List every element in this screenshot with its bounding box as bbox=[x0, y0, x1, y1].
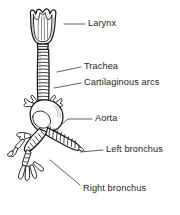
left-bronchus-group bbox=[46, 127, 84, 152]
label-larynx: Larynx bbox=[88, 18, 116, 28]
label-trachea: Trachea bbox=[84, 61, 119, 71]
right-hook-branch bbox=[8, 151, 13, 157]
label-left-bronchus: Left bronchus bbox=[106, 144, 163, 154]
trachea-group bbox=[37, 49, 49, 102]
right-terminal-2 bbox=[25, 166, 29, 180]
leader-cartilaginous-arcs bbox=[54, 83, 81, 88]
larynx-group bbox=[30, 9, 55, 50]
label-aorta: Aorta bbox=[95, 113, 118, 123]
leader-trachea bbox=[57, 67, 81, 72]
label-cartilaginous-arcs: Cartilaginous arcs bbox=[84, 77, 160, 87]
leader-aorta bbox=[62, 119, 92, 124]
label-texts: Larynx Trachea Cartilaginous arcs Aorta … bbox=[83, 18, 163, 193]
right-terminal-1 bbox=[18, 165, 25, 179]
right-bronchus-group bbox=[8, 129, 47, 181]
leader-right-bronchus bbox=[50, 160, 80, 185]
right-bronchus-outline bbox=[24, 129, 46, 152]
right-upper-lobe-branch bbox=[17, 132, 31, 140]
label-right-bronchus: Right bronchus bbox=[83, 183, 147, 193]
anatomical-figure: Larynx Trachea Cartilaginous arcs Aorta … bbox=[0, 0, 180, 215]
respiratory-tract-illustration: Larynx Trachea Cartilaginous arcs Aorta … bbox=[0, 0, 180, 215]
aorta-group bbox=[24, 95, 63, 132]
